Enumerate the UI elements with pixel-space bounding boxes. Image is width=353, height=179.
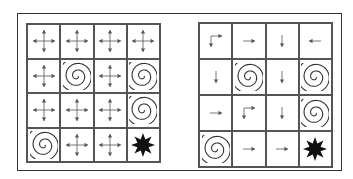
grid-cell-r0-c3 bbox=[299, 23, 332, 59]
four-way-arrow-icon bbox=[96, 27, 124, 55]
grid-cell-r3-c1 bbox=[60, 128, 93, 163]
grid-cell-r2-c2 bbox=[266, 95, 299, 131]
spiral-icon bbox=[129, 96, 157, 124]
four-way-arrow-icon bbox=[30, 27, 58, 55]
grid-cell-r3-c0 bbox=[27, 128, 60, 163]
grid-cell-r1-c3 bbox=[127, 59, 160, 94]
grid-cell-r0-c2 bbox=[94, 24, 127, 59]
spiral-icon bbox=[30, 131, 58, 159]
four-way-arrow-icon bbox=[96, 62, 124, 90]
grid-cell-r0-c2 bbox=[266, 23, 299, 59]
grid-cell-r3-c3 bbox=[127, 128, 160, 163]
arrow-right-icon bbox=[239, 144, 259, 154]
grid-cell-r1-c2 bbox=[266, 59, 299, 95]
spiral-icon bbox=[129, 62, 157, 90]
grid-cell-r3-c1 bbox=[232, 131, 265, 167]
spiral-icon bbox=[63, 62, 91, 90]
gridworld-policy bbox=[198, 22, 333, 168]
star-icon bbox=[129, 131, 157, 159]
grid-cell-r3-c2 bbox=[94, 128, 127, 163]
grid-cell-r2-c2 bbox=[94, 93, 127, 128]
spiral-icon bbox=[202, 135, 230, 163]
grid-cell-r1-c2 bbox=[94, 59, 127, 94]
arrow-down-icon bbox=[211, 67, 221, 87]
grid-cell-r3-c0 bbox=[199, 131, 232, 167]
grid-cell-r0-c1 bbox=[232, 23, 265, 59]
grid-cell-r1-c3 bbox=[299, 59, 332, 95]
grid-cell-r1-c1 bbox=[232, 59, 265, 95]
grid-cell-r3-c2 bbox=[266, 131, 299, 167]
arrow-down-icon bbox=[277, 31, 287, 51]
four-way-arrow-icon bbox=[63, 96, 91, 124]
grid-cell-r2-c0 bbox=[27, 93, 60, 128]
four-way-arrow-icon bbox=[63, 131, 91, 159]
grid-cell-r2-c1 bbox=[232, 95, 265, 131]
grid-cell-r1-c0 bbox=[27, 59, 60, 94]
four-way-arrow-icon bbox=[30, 62, 58, 90]
four-way-arrow-icon bbox=[30, 96, 58, 124]
arrow-right-down-icon bbox=[205, 30, 227, 52]
arrow-right-icon bbox=[206, 108, 226, 118]
grid-cell-r1-c0 bbox=[199, 59, 232, 95]
grid-cell-r1-c1 bbox=[60, 59, 93, 94]
grid-cell-r0-c0 bbox=[199, 23, 232, 59]
grid-cell-r0-c0 bbox=[27, 24, 60, 59]
arrow-right-down-icon bbox=[238, 102, 260, 124]
arrow-left-icon bbox=[305, 36, 325, 46]
spiral-icon bbox=[235, 63, 263, 91]
grid-cell-r2-c3 bbox=[299, 95, 332, 131]
grid-cell-r0-c1 bbox=[60, 24, 93, 59]
arrow-right-icon bbox=[239, 36, 259, 46]
grid-cell-r2-c3 bbox=[127, 93, 160, 128]
four-way-arrow-icon bbox=[63, 27, 91, 55]
four-way-arrow-icon bbox=[129, 27, 157, 55]
gridworld-all-actions bbox=[26, 23, 161, 163]
spiral-icon bbox=[301, 99, 329, 127]
arrow-down-icon bbox=[277, 67, 287, 87]
four-way-arrow-icon bbox=[96, 96, 124, 124]
grid-cell-r3-c3 bbox=[299, 131, 332, 167]
arrow-down-icon bbox=[277, 103, 287, 123]
grid-cell-r2-c1 bbox=[60, 93, 93, 128]
star-icon bbox=[301, 135, 329, 163]
grid-cell-r0-c3 bbox=[127, 24, 160, 59]
four-way-arrow-icon bbox=[96, 131, 124, 159]
arrow-right-icon bbox=[272, 144, 292, 154]
spiral-icon bbox=[301, 63, 329, 91]
grid-cell-r2-c0 bbox=[199, 95, 232, 131]
